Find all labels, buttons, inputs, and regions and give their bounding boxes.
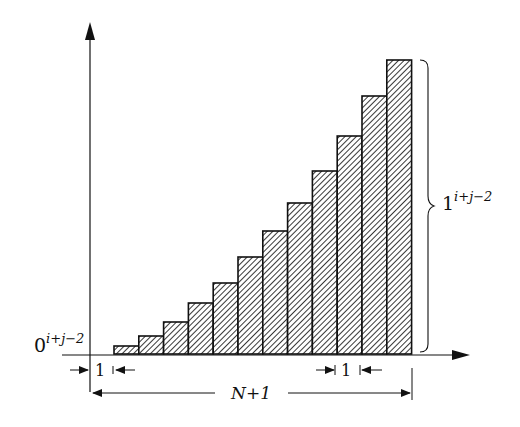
right-unit-dimension: 1 xyxy=(316,361,382,380)
left-unit-dimension: 1 xyxy=(70,361,135,380)
left-unit-label: 1 xyxy=(95,361,105,380)
bar xyxy=(337,136,362,354)
bar xyxy=(312,171,337,354)
bar xyxy=(139,336,164,354)
span-label: N+1 xyxy=(230,383,271,403)
bar xyxy=(114,346,139,354)
bar xyxy=(387,60,412,354)
bar xyxy=(238,257,263,354)
left-level-label: 0i+j−2 xyxy=(34,331,84,356)
x-axis-arrow-icon xyxy=(452,350,470,360)
bar xyxy=(362,96,387,354)
bar xyxy=(263,231,288,354)
right-brace xyxy=(420,60,434,352)
y-axis xyxy=(85,22,95,392)
right-height-label: 1i+j−2 xyxy=(442,189,492,214)
bar xyxy=(213,283,238,354)
bar xyxy=(164,322,189,354)
bar xyxy=(188,303,213,354)
span-dimension: N+1 xyxy=(93,368,412,403)
right-unit-label: 1 xyxy=(341,361,351,380)
y-axis-arrow-icon xyxy=(85,22,95,40)
bar xyxy=(288,203,313,354)
bars-group xyxy=(114,60,412,354)
staircase-diagram: 0i+j−2 1i+j−2 1 1 N+1 xyxy=(0,0,520,427)
